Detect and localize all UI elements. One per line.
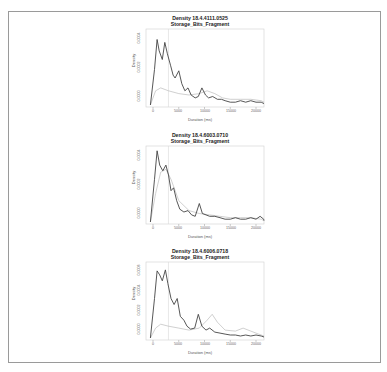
x-tick-2: 10000: [200, 342, 210, 346]
x-tick-2: 10000: [200, 226, 210, 230]
x-tick-3: 15000: [226, 109, 236, 113]
x-tick-0: 0: [152, 342, 154, 346]
x-axis-label: Duration (ms): [130, 117, 270, 122]
x-axis-label: Duration (ms): [130, 350, 270, 355]
x-tick-2: 10000: [200, 109, 210, 113]
x-tick-4: 20000: [251, 109, 261, 113]
density-chart-2: Density 18.4.6003.0710 Storage_Bits_Frag…: [130, 130, 270, 245]
x-tick-3: 15000: [226, 226, 236, 230]
density-chart-3: Density 18.4.6006.0718 Storage_Bits_Frag…: [130, 246, 270, 361]
x-axis-label: Duration (ms): [130, 234, 270, 239]
secondary-density-line: [150, 314, 264, 338]
secondary-density-line: [150, 169, 264, 222]
x-tick-4: 20000: [251, 342, 261, 346]
x-tick-3: 15000: [226, 342, 236, 346]
primary-density-line: [150, 151, 264, 222]
primary-density-line: [150, 40, 264, 106]
x-tick-1: 5000: [174, 342, 182, 346]
x-tick-0: 0: [152, 109, 154, 113]
primary-density-line: [150, 270, 264, 338]
x-tick-1: 5000: [174, 226, 182, 230]
x-tick-4: 20000: [251, 226, 261, 230]
x-tick-0: 0: [152, 226, 154, 230]
x-tick-1: 5000: [174, 109, 182, 113]
density-chart-1: Density 18.4.4111.0525 Storage_Bits_Frag…: [130, 13, 270, 128]
